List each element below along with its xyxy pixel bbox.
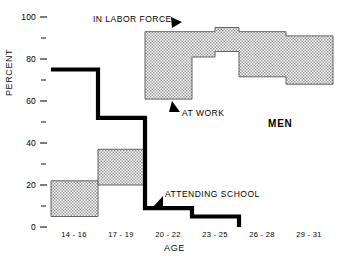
band-segment-20-31 <box>145 28 333 100</box>
annotation-at-work-label: AT WORK <box>182 108 224 118</box>
x-tick-label-0: 14 - 16 <box>61 230 86 239</box>
x-tick-label-3: 23 - 25 <box>202 230 227 239</box>
y-tick-label-40: 40 <box>26 138 36 148</box>
band-segment-17-19 <box>98 149 145 185</box>
annotation-attending-school: ATTENDING SCHOOL <box>152 189 260 208</box>
x-tick-label-2: 20 - 22 <box>155 230 180 239</box>
y-tick-label-100: 100 <box>21 12 36 22</box>
x-tick-label-1: 17 - 19 <box>108 230 133 239</box>
annotation-at-work: AT WORK <box>169 101 224 118</box>
x-tick-label-4: 26 - 28 <box>249 230 274 239</box>
arrow-left-icon <box>169 101 180 112</box>
x-tick-label-5: 29 - 31 <box>296 230 321 239</box>
group-label-men: MEN <box>268 118 293 129</box>
annotation-in-labor-force-label: IN LABOR FORCE <box>93 14 172 24</box>
chart-container: PERCENT AGE 100 80 <box>0 0 349 261</box>
band-segment-14-16 <box>51 181 98 217</box>
arrow-right-icon <box>171 17 182 28</box>
y-tick-label-60: 60 <box>26 96 36 106</box>
annotation-in-labor-force: IN LABOR FORCE <box>93 14 182 28</box>
y-axis-minor-ticks <box>41 38 46 206</box>
chart-plot-area: 100 80 60 40 20 0 14 - 16 17 - 19 20 - 2… <box>0 0 349 261</box>
y-tick-label-80: 80 <box>26 54 36 64</box>
annotation-attending-school-label: ATTENDING SCHOOL <box>165 189 260 199</box>
y-tick-label-0: 0 <box>31 222 36 232</box>
y-tick-label-20: 20 <box>26 180 36 190</box>
